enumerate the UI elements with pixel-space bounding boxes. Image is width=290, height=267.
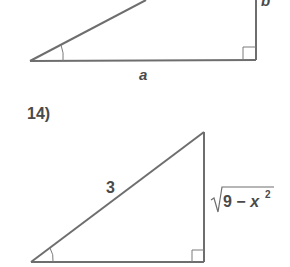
label-b: b bbox=[261, 0, 270, 9]
triangle-2-hypotenuse bbox=[31, 132, 204, 262]
angle-arc-1 bbox=[61, 45, 63, 61]
right-angle-marker-2 bbox=[192, 250, 204, 262]
exponent-text: 2 bbox=[265, 189, 271, 200]
label-sqrt-expression: 9 − x 2 bbox=[211, 187, 274, 212]
triangle-1-hypotenuse bbox=[30, 0, 146, 61]
angle-arc-2 bbox=[50, 248, 53, 262]
triangle-1-base bbox=[30, 60, 256, 61]
label-a: a bbox=[139, 66, 147, 83]
radicand-text: 9 − x bbox=[223, 193, 260, 210]
worksheet-figure: a b 14) 3 9 − x 2 bbox=[0, 0, 290, 267]
right-angle-marker-1 bbox=[243, 47, 256, 60]
problem-number: 14) bbox=[27, 105, 50, 122]
label-hypotenuse-3: 3 bbox=[106, 179, 115, 196]
right-triangle-1 bbox=[30, 0, 256, 61]
right-triangle-2 bbox=[31, 132, 204, 262]
